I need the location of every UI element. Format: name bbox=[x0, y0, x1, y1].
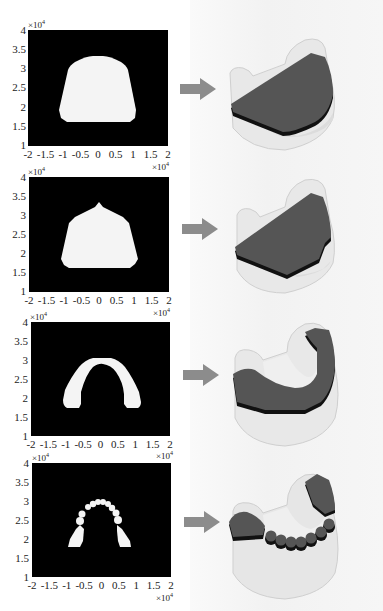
dental-model-3 bbox=[225, 310, 375, 450]
y-tick: 3.5 bbox=[5, 477, 29, 488]
mask-plot-2 bbox=[29, 177, 169, 292]
x-exponent: ×104 bbox=[153, 307, 170, 318]
y-tick: 2 bbox=[4, 393, 28, 404]
y-tick: 3.5 bbox=[2, 44, 26, 55]
y-tick: 1.5 bbox=[5, 553, 29, 564]
y-tick: 2.5 bbox=[5, 515, 29, 526]
right-arrow-icon bbox=[184, 511, 220, 533]
y-tick: 3 bbox=[2, 63, 26, 74]
y-tick: 2.5 bbox=[2, 82, 26, 93]
y-tick: 2.5 bbox=[2, 229, 26, 240]
y-tick: 2 bbox=[5, 534, 29, 545]
full-palate-mask bbox=[28, 30, 168, 146]
y-tick: 3.5 bbox=[2, 191, 26, 202]
dental-model-1 bbox=[225, 18, 375, 153]
y-exponent: ×104 bbox=[28, 19, 45, 30]
peaked-palate-mask bbox=[29, 177, 169, 292]
right-arrow-icon bbox=[182, 218, 218, 240]
x-exponent: ×104 bbox=[156, 592, 173, 603]
y-tick: 3 bbox=[4, 355, 28, 366]
y-tick: 1 bbox=[2, 286, 26, 297]
y-tick: 4 bbox=[4, 317, 28, 328]
y-exponent: ×104 bbox=[32, 452, 49, 463]
y-tick: 2 bbox=[2, 248, 26, 259]
y-tick: 1 bbox=[5, 572, 29, 583]
tooth-chain-mask bbox=[32, 463, 171, 577]
y-tick: 3 bbox=[5, 496, 29, 507]
right-arrow-icon bbox=[183, 364, 219, 386]
mask-plot-1 bbox=[28, 30, 168, 146]
y-tick: 3 bbox=[2, 210, 26, 221]
horseshoe-mask bbox=[31, 322, 170, 436]
y-tick: 1.5 bbox=[2, 121, 26, 132]
y-tick: 1.5 bbox=[2, 267, 26, 278]
mask-plot-4 bbox=[32, 463, 171, 577]
x-exponent: ×104 bbox=[156, 450, 173, 461]
mask-plot-3 bbox=[31, 322, 170, 436]
y-tick: 1.5 bbox=[4, 412, 28, 423]
y-tick: 1 bbox=[2, 140, 26, 151]
dental-model-2 bbox=[225, 165, 375, 300]
y-exponent: ×104 bbox=[30, 311, 47, 322]
y-tick: 4 bbox=[2, 25, 26, 36]
y-tick: 1 bbox=[4, 431, 28, 442]
x-exponent: ×104 bbox=[152, 161, 169, 172]
y-tick: 3.5 bbox=[4, 336, 28, 347]
right-arrow-icon bbox=[180, 78, 216, 100]
y-tick: 2.5 bbox=[4, 374, 28, 385]
y-tick: 2 bbox=[2, 102, 26, 113]
dental-model-4 bbox=[225, 455, 375, 605]
y-exponent: ×104 bbox=[28, 166, 45, 177]
y-tick: 4 bbox=[2, 172, 26, 183]
y-tick: 4 bbox=[5, 458, 29, 469]
